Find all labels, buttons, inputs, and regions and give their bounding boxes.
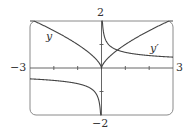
- y-min-label: −2: [92, 118, 108, 129]
- curve-yprime-right: [102, 21, 174, 57]
- curve-yprime-left: [30, 79, 102, 115]
- x-min-label: −3: [10, 62, 26, 73]
- curve-y-label: y: [46, 31, 52, 42]
- x-max-label: 3: [176, 62, 183, 73]
- y-max-label: 2: [97, 7, 104, 18]
- chart-plot: [0, 0, 190, 135]
- curve-yprime-label: y′: [150, 43, 159, 54]
